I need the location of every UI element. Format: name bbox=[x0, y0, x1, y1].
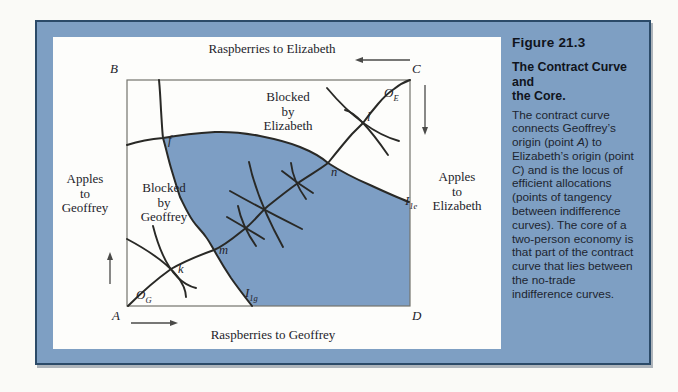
origin-label-geoffrey: OG bbox=[136, 288, 152, 303]
axis-label-left: Apples to Geoffrey bbox=[62, 172, 109, 216]
origin-elizabeth-sub: E bbox=[393, 93, 398, 103]
figure-number: Figure 21.3 bbox=[512, 35, 649, 50]
curve-i1g-sub: 1g bbox=[249, 293, 258, 303]
corner-label-d: D bbox=[412, 309, 421, 324]
curve-label-i1e: I1e bbox=[405, 194, 417, 209]
figure-title: The Contract Curve and the Core. bbox=[512, 60, 649, 104]
point-label-f: f bbox=[168, 133, 171, 148]
axis-label-bottom: Raspberries to Geoffrey bbox=[211, 328, 336, 343]
curve-label-i1g: I1g bbox=[245, 286, 258, 301]
origin-label-elizabeth: OE bbox=[384, 86, 399, 101]
region-blocked-by-elizabeth: Blocked by Elizabeth bbox=[263, 90, 312, 134]
page: { "figure": { "label": "Figure 21.3", "t… bbox=[0, 0, 678, 392]
description-point-c: C bbox=[512, 163, 521, 177]
description-point-a: A bbox=[577, 135, 585, 149]
origin-geoffrey-sub: G bbox=[145, 295, 151, 305]
origin-geoffrey-main: O bbox=[136, 287, 145, 302]
origin-elizabeth-main: O bbox=[384, 85, 393, 100]
corner-label-c: C bbox=[412, 62, 421, 77]
corner-label-b: B bbox=[110, 62, 118, 77]
figure-caption: Figure 21.3 The Contract Curve and the C… bbox=[512, 35, 649, 302]
description-part-3: ) and is the locus of efficient allocati… bbox=[512, 163, 633, 301]
axis-label-top: Raspberries to Elizabeth bbox=[208, 42, 335, 57]
corner-label-a: A bbox=[112, 309, 120, 324]
region-blocked-by-geoffrey: Blocked by Geoffrey bbox=[141, 181, 188, 225]
point-label-n: n bbox=[331, 165, 337, 180]
figure-description: The contract curve connects Geoffrey’s o… bbox=[512, 109, 649, 302]
point-label-k: k bbox=[178, 262, 184, 277]
point-label-l: l bbox=[367, 110, 370, 125]
curve-i1e-sub: 1e bbox=[409, 201, 417, 211]
point-label-m: m bbox=[219, 243, 228, 258]
axis-label-right: Apples to Elizabeth bbox=[432, 170, 481, 214]
